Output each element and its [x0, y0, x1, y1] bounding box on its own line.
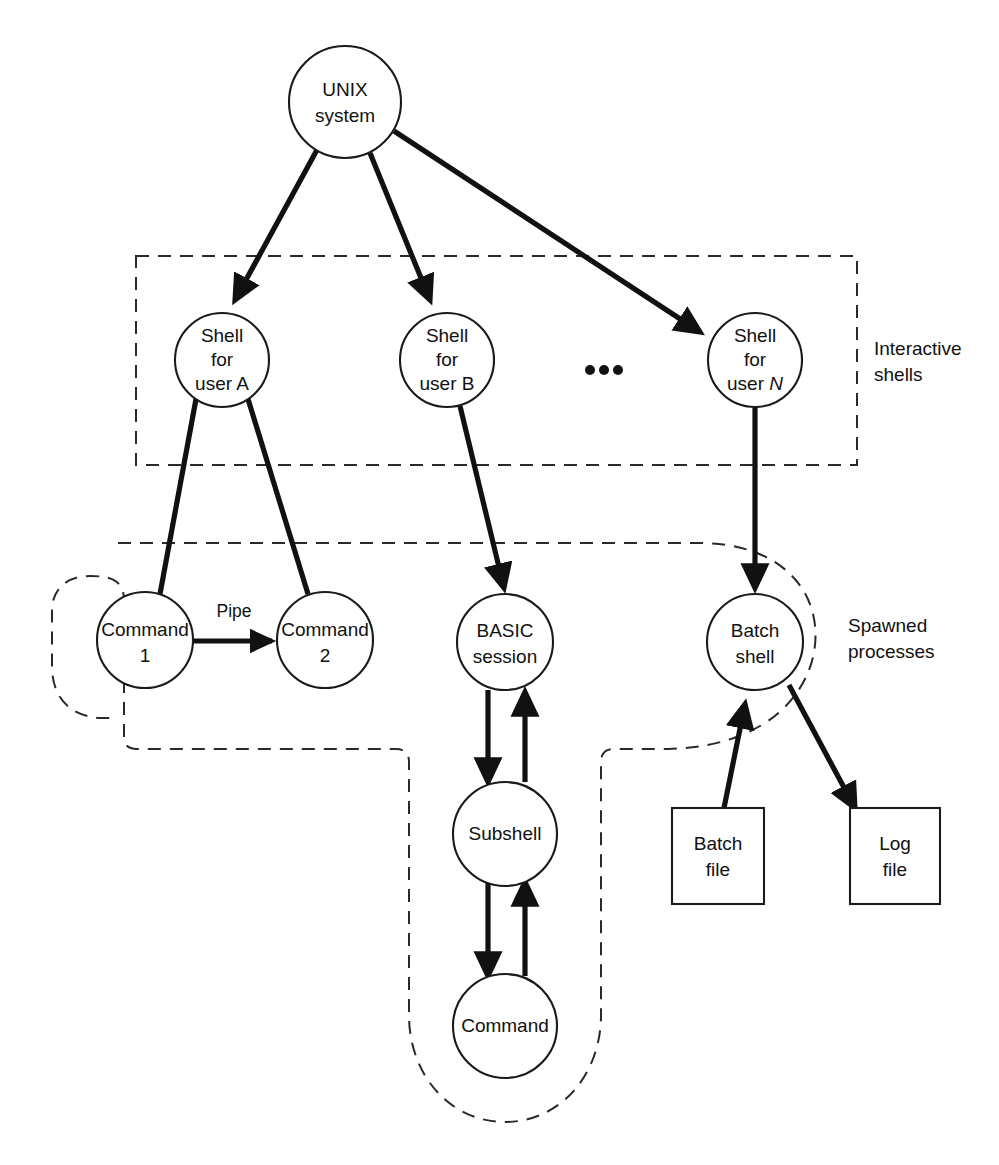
edge-unix-to-shell-b	[370, 153, 430, 300]
node-batch-file[interactable]: Batch file	[672, 808, 764, 904]
command-2-label-line1: Command	[281, 619, 369, 640]
unix-system-label-line1: UNIX	[322, 79, 368, 100]
command-1-label-line2: 1	[140, 645, 151, 666]
edge-pipe: Pipe	[193, 601, 272, 641]
node-shell-for-user-n[interactable]: Shell for user N	[708, 313, 802, 407]
edges-unix-to-shells	[235, 131, 700, 332]
shell-for-user-n-label-line1: Shell	[734, 325, 776, 346]
shell-for-user-n-label-italic-n: N	[769, 373, 783, 394]
shell-for-user-n-label-prefix: user	[727, 373, 769, 394]
node-subshell[interactable]: Subshell	[453, 782, 557, 886]
edge-batch-shell-to-log-file	[789, 685, 855, 808]
command-label: Command	[461, 1015, 549, 1036]
node-command-1[interactable]: Command 1	[97, 592, 193, 688]
batch-shell-circle[interactable]	[707, 594, 803, 690]
ellipsis-dot-3	[613, 365, 623, 375]
spawned-processes-label-line1: Spawned	[848, 615, 927, 636]
ellipsis-dot-2	[599, 365, 609, 375]
shell-for-user-b-label-line1: Shell	[426, 325, 468, 346]
edge-shell-a-to-command-2	[248, 399, 308, 594]
batch-shell-label-line1: Batch	[731, 620, 780, 641]
log-file-label-line1: Log	[879, 833, 911, 854]
interactive-shells-label-line2: shells	[874, 364, 923, 385]
shell-for-user-b-label-line3: user B	[420, 373, 475, 394]
node-shell-for-user-b[interactable]: Shell for user B	[400, 313, 494, 407]
log-file-rect[interactable]	[850, 808, 940, 904]
shell-for-user-a-label-line2: for	[211, 349, 234, 370]
node-batch-shell[interactable]: Batch shell	[707, 594, 803, 690]
node-basic-session[interactable]: BASIC session	[457, 594, 553, 690]
node-unix-system[interactable]: UNIX system	[289, 46, 401, 158]
edge-unix-to-shell-n	[394, 131, 700, 332]
subshell-label: Subshell	[469, 823, 542, 844]
pipe-label: Pipe	[216, 601, 251, 621]
log-file-label-line2: file	[883, 859, 907, 880]
command-2-label-line2: 2	[320, 645, 331, 666]
spawned-processes-label-line2: processes	[848, 641, 935, 662]
interactive-shells-label-line1: Interactive	[874, 338, 962, 359]
node-command[interactable]: Command	[453, 974, 557, 1078]
unix-system-label-line2: system	[315, 105, 375, 126]
diagram-svg: Pipe UNIX system	[0, 0, 999, 1165]
edges-shell-b-to-basic	[460, 406, 504, 588]
ellipsis-dot-1	[585, 365, 595, 375]
shell-for-user-a-label-line3: user A	[195, 373, 249, 394]
spawned-processes-label: Spawned processes	[848, 615, 935, 662]
ellipsis-icon	[585, 365, 623, 375]
edge-shell-b-to-basic-session	[460, 406, 504, 588]
edges-shell-a-to-commands	[160, 399, 308, 594]
shell-for-user-n-label-line3: user N	[727, 373, 783, 394]
unix-system-circle[interactable]	[289, 46, 401, 158]
node-command-2[interactable]: Command 2	[277, 592, 373, 688]
edge-unix-to-shell-a	[235, 148, 318, 300]
batch-shell-label-line2: shell	[735, 646, 774, 667]
batch-file-rect[interactable]	[672, 808, 764, 904]
shell-for-user-b-label-line2: for	[436, 349, 459, 370]
edge-shell-a-to-command-1	[160, 399, 196, 594]
diagram-canvas: Pipe UNIX system	[0, 0, 999, 1165]
shell-for-user-n-label-line2: for	[744, 349, 767, 370]
edge-batch-file-to-batch-shell	[724, 704, 745, 808]
basic-session-circle[interactable]	[457, 594, 553, 690]
shell-for-user-a-label-line1: Shell	[201, 325, 243, 346]
batch-file-label-line1: Batch	[694, 833, 743, 854]
basic-session-label-line2: session	[473, 646, 537, 667]
command-1-label-line1: Command	[101, 619, 189, 640]
basic-session-label-line1: BASIC	[476, 620, 533, 641]
batch-file-label-line2: file	[706, 859, 730, 880]
node-shell-for-user-a[interactable]: Shell for user A	[175, 313, 269, 407]
interactive-shells-label: Interactive shells	[874, 338, 962, 385]
node-log-file[interactable]: Log file	[850, 808, 940, 904]
